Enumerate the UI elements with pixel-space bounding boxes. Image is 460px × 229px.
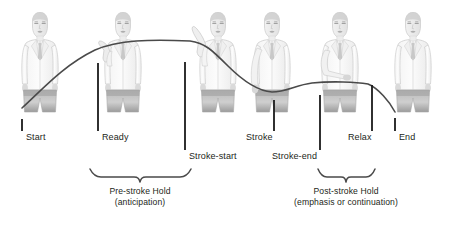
figure-ready bbox=[99, 12, 142, 112]
tick-label-stroke-start: Stroke-start bbox=[189, 151, 237, 161]
brace-post-stroke-hold bbox=[318, 169, 375, 182]
brace-pre-stroke-hold bbox=[90, 169, 191, 182]
gesture-phase-diagram: Start Ready Stroke-start Stroke Stroke-e… bbox=[0, 0, 460, 229]
tick-label-start: Start bbox=[26, 132, 46, 142]
caption-post-stroke-hold-subtitle: (emphasis or continuation) bbox=[256, 197, 436, 208]
caption-pre-stroke-hold-subtitle: (anticipation) bbox=[60, 197, 220, 208]
caption-post-stroke-hold: Post-stroke Hold (emphasis or continuati… bbox=[256, 186, 436, 208]
figure-stroke-start bbox=[192, 12, 236, 112]
tick-label-stroke: Stroke bbox=[246, 132, 273, 142]
tick-label-ready: Ready bbox=[102, 132, 129, 142]
figure-relax bbox=[321, 12, 358, 112]
tick-label-end: End bbox=[399, 132, 415, 142]
figure-stroke bbox=[251, 12, 290, 112]
tick-label-stroke-end: Stroke-end bbox=[272, 151, 317, 161]
caption-pre-stroke-hold-title: Pre-stroke Hold bbox=[60, 186, 220, 197]
caption-pre-stroke-hold: Pre-stroke Hold (anticipation) bbox=[60, 186, 220, 208]
figure-start bbox=[22, 12, 58, 112]
caption-post-stroke-hold-title: Post-stroke Hold bbox=[256, 186, 436, 197]
tick-label-relax: Relax bbox=[348, 132, 372, 142]
figure-end bbox=[395, 12, 431, 112]
